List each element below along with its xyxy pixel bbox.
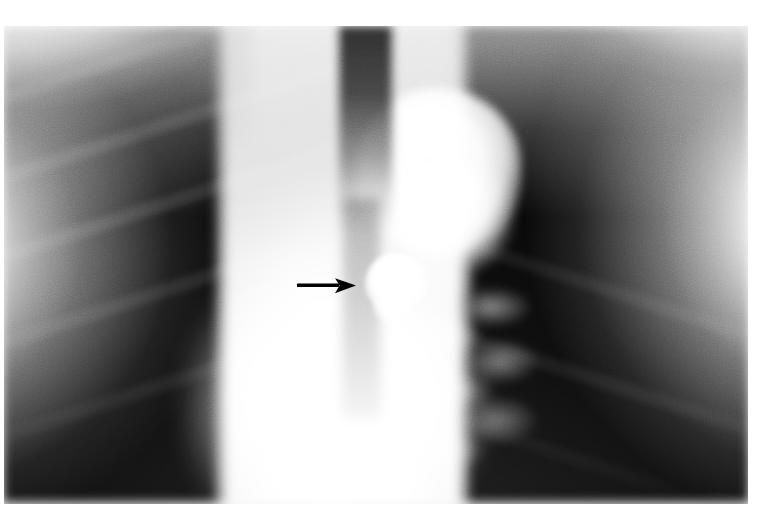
calcified-nodule-lobe <box>373 289 412 324</box>
figure-page <box>0 0 761 515</box>
hilar-markings-right <box>406 265 570 475</box>
arrow-icon <box>297 278 356 293</box>
chest-radiograph-image <box>4 26 748 504</box>
lesion-arrow-annotation <box>294 272 362 300</box>
